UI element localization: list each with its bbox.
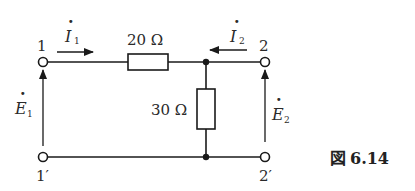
resistor-20-ohm: [128, 54, 168, 70]
figure-caption-prefix: 図: [330, 149, 346, 168]
voltage-subscript-e1: 1: [27, 109, 33, 119]
resistor-30-ohm: [197, 89, 215, 129]
terminal-label-1: 1: [37, 37, 47, 55]
terminal-label-1-prime: 1′: [36, 167, 50, 185]
terminal-2-prime: [261, 153, 270, 162]
terminal-label-2: 2: [259, 37, 269, 55]
terminal-label-2-prime: 2′: [259, 167, 273, 185]
current-subscript-i1: 1: [74, 36, 80, 46]
voltage-symbol-e2: E: [271, 105, 284, 124]
current-symbol-i1: I: [64, 27, 72, 46]
current-subscript-i2: 2: [239, 36, 245, 46]
current-symbol-i2: I: [229, 27, 237, 46]
resistor-label-20-ohm: 20 Ω: [127, 31, 163, 49]
voltage-subscript-e2: 2: [284, 115, 290, 125]
terminal-2: [261, 58, 270, 67]
terminal-1: [39, 58, 48, 67]
circuit-diagram: 1 1′ 2 2′ 20 Ω 30 Ω · I 1 · I 2 · E 1 · …: [0, 0, 415, 191]
terminal-1-prime: [39, 153, 48, 162]
figure-caption-number: 6.14: [350, 149, 389, 168]
voltage-symbol-e1: E: [14, 99, 27, 118]
resistor-label-30-ohm: 30 Ω: [151, 101, 187, 119]
